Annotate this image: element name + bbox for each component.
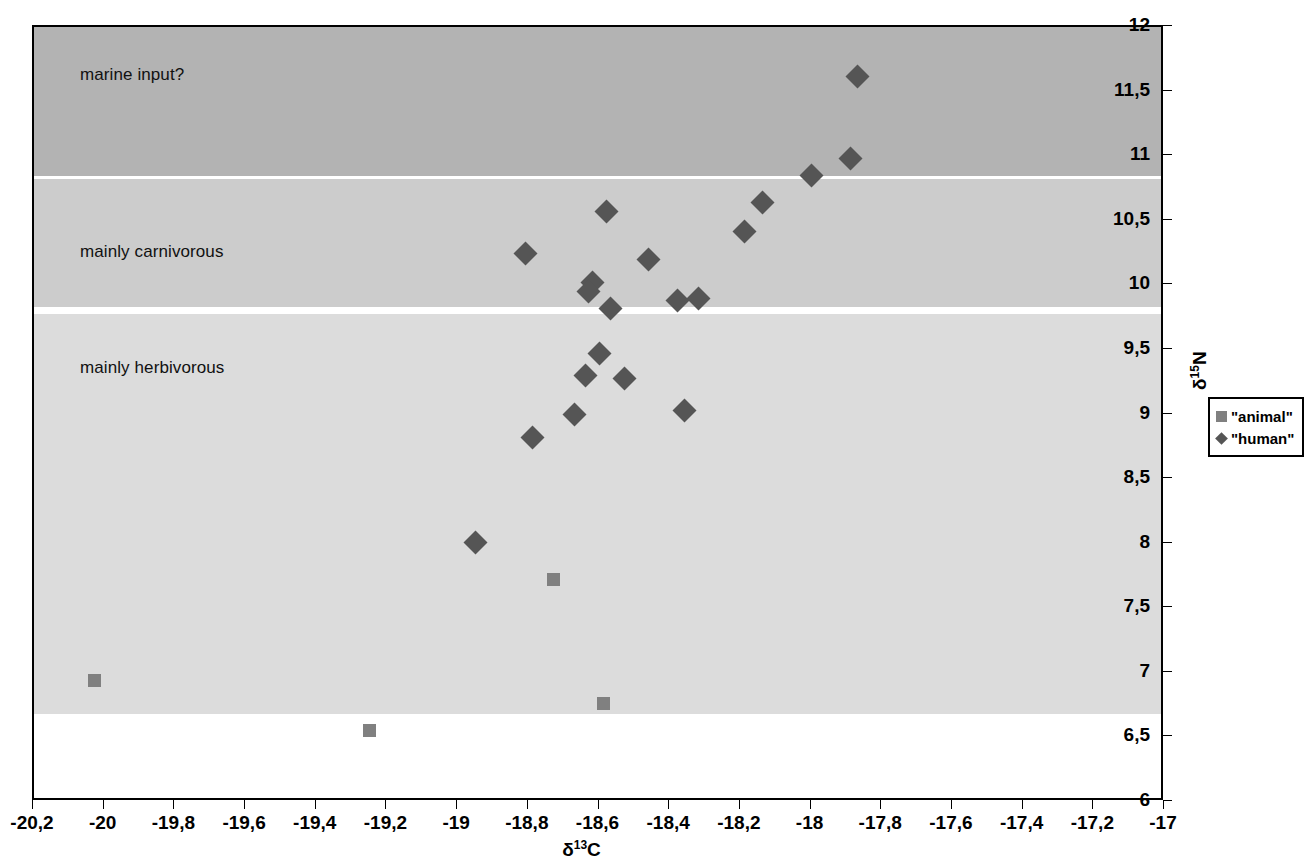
x-tick — [951, 800, 952, 809]
band-0 — [34, 27, 1161, 176]
x-tick — [880, 800, 881, 809]
x-tick-label: -19,8 — [152, 812, 195, 834]
x-tick — [385, 800, 386, 809]
x-tick-label: -17 — [1149, 812, 1176, 834]
x-tick-label: -17,4 — [1000, 812, 1043, 834]
y-tick — [1163, 735, 1172, 736]
data-point-square — [363, 724, 376, 737]
legend: "animal""human" — [1208, 397, 1304, 457]
x-tick — [739, 800, 740, 809]
x-tick — [1163, 800, 1164, 809]
y-axis-title: δ15N — [1188, 351, 1211, 390]
y-tick-label: 7 — [1139, 660, 1150, 682]
plot-inner: marine input?mainly carnivorousmainly he… — [34, 27, 1161, 798]
y-tick-label: 8,5 — [1124, 466, 1150, 488]
y-tick — [1163, 413, 1172, 414]
x-tick-label: -18 — [796, 812, 823, 834]
y-tick — [1163, 90, 1172, 91]
x-tick-label: -17,8 — [859, 812, 902, 834]
x-tick-label: -19,4 — [293, 812, 336, 834]
y-tick-label: 6,5 — [1124, 724, 1150, 746]
legend-item: "human" — [1216, 427, 1294, 449]
band-label-0: marine input? — [80, 65, 184, 85]
x-tick-label: -19,2 — [364, 812, 407, 834]
y-tick — [1163, 283, 1172, 284]
x-axis-title-delta: δ — [562, 839, 574, 860]
x-tick — [810, 800, 811, 809]
x-tick-label: -20,2 — [10, 812, 53, 834]
x-tick-label: -19,6 — [222, 812, 265, 834]
x-tick — [598, 800, 599, 809]
x-tick-label: -18,8 — [505, 812, 548, 834]
x-tick-label: -20 — [89, 812, 116, 834]
y-tick-label: 12 — [1129, 14, 1150, 36]
x-tick — [527, 800, 528, 809]
plot-area: marine input?mainly carnivorousmainly he… — [32, 25, 1163, 800]
y-tick-label: 8 — [1139, 531, 1150, 553]
x-tick — [1022, 800, 1023, 809]
y-axis-title-element: N — [1189, 351, 1210, 365]
y-axis-title-delta: δ — [1189, 378, 1210, 390]
x-tick-label: -17,2 — [1071, 812, 1114, 834]
x-tick — [1092, 800, 1093, 809]
y-tick-label: 9,5 — [1124, 337, 1150, 359]
x-tick-label: -17,6 — [929, 812, 972, 834]
y-tick-label: 9 — [1139, 402, 1150, 424]
x-tick — [668, 800, 669, 809]
legend-square-icon — [1216, 411, 1227, 422]
x-tick — [173, 800, 174, 809]
y-tick — [1163, 542, 1172, 543]
y-axis-title-superscript: 15 — [1188, 365, 1202, 378]
y-tick — [1163, 219, 1172, 220]
x-axis-title: δ13C — [0, 838, 1163, 861]
x-tick — [456, 800, 457, 809]
data-point-square — [597, 697, 610, 710]
legend-label: "animal" — [1231, 408, 1293, 425]
x-tick — [32, 800, 33, 809]
y-tick-label: 10 — [1129, 272, 1150, 294]
y-tick-label: 6 — [1139, 789, 1150, 811]
x-tick — [315, 800, 316, 809]
y-tick — [1163, 671, 1172, 672]
data-point-square — [88, 674, 101, 687]
band-label-1: mainly carnivorous — [80, 242, 224, 262]
y-tick-label: 11,5 — [1114, 79, 1150, 101]
y-tick-label: 11 — [1130, 143, 1150, 165]
x-tick — [244, 800, 245, 809]
y-tick — [1163, 25, 1172, 26]
y-tick — [1163, 154, 1172, 155]
y-tick-label: 7,5 — [1124, 595, 1150, 617]
data-point-square — [547, 573, 560, 586]
x-tick-label: -18,4 — [647, 812, 690, 834]
x-tick — [103, 800, 104, 809]
x-tick-label: -18,6 — [576, 812, 619, 834]
y-tick — [1163, 477, 1172, 478]
x-axis-title-element: C — [587, 839, 601, 860]
y-tick — [1163, 348, 1172, 349]
x-axis-title-superscript: 13 — [574, 838, 587, 852]
y-tick — [1163, 606, 1172, 607]
legend-label: "human" — [1231, 430, 1294, 447]
y-tick — [1163, 800, 1172, 801]
x-tick-label: -18,2 — [717, 812, 760, 834]
x-tick-label: -19 — [442, 812, 469, 834]
y-tick-label: 10,5 — [1113, 208, 1150, 230]
legend-diamond-icon — [1215, 432, 1228, 445]
legend-item: "animal" — [1216, 405, 1294, 427]
band-label-2: mainly herbivorous — [80, 358, 224, 378]
